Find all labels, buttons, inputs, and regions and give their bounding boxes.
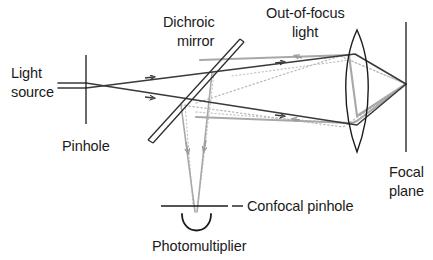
dichroic-mirror-face-front [148,39,240,140]
illumination-arrow-lower-1 [145,97,153,98]
light-source-label-line1: Light [11,65,42,81]
out-of-focus-upper-edge [196,56,406,103]
confocal-pinhole-label: Confocal pinhole [247,198,353,214]
illumination-arrow-upper-1 [145,77,153,78]
out-of-focus-label-line2: light [292,24,318,40]
dichroic-mirror [148,39,244,143]
illumination-arrow-lower-2 [275,115,283,116]
objective-lens-body [346,30,369,152]
objective-lens [346,30,369,152]
out-of-focus-label-line1: Out-of-focus [266,5,345,21]
photomultiplier [182,214,211,231]
dichroic-mirror-label-line1: Dichroic [163,14,215,30]
optical-diagram-canvas: Light source Pinhole Dichroic mirror Out… [0,0,433,260]
pinhole-label: Pinhole [62,138,110,154]
detection-ray-left [181,105,195,212]
photomultiplier-label: Photomultiplier [152,238,247,254]
out-of-focus-secondary-upper [232,60,406,84]
focal-plane-label-line1: Focal [389,164,424,180]
light-source-label-line2: source [11,84,54,100]
photomultiplier-detector-cup [182,214,211,231]
dichroic-mirror-face-back [153,42,244,143]
focal-plane-label-line2: plane [389,183,424,199]
return-arrow-lower [294,119,300,120]
detection-ray-right [197,73,212,212]
dichroic-mirror-edge-top [240,39,244,42]
dichroic-mirror-label-line2: mirror [177,33,215,49]
dichroic-mirror-edge-bottom [148,140,153,143]
out-of-focus-beam [181,56,406,205]
confocal-microscope-diagram: Light source Pinhole Dichroic mirror Out… [0,0,433,260]
illumination-arrow-upper-2 [275,62,283,63]
